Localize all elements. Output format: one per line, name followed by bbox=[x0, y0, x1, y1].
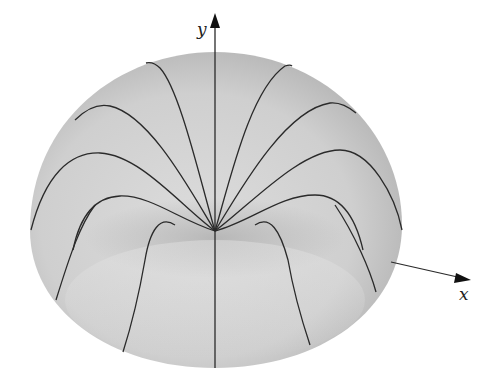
x-axis-label: x bbox=[459, 284, 469, 304]
x-axis-arrowhead bbox=[454, 273, 471, 283]
x-axis-line bbox=[391, 262, 462, 278]
y-axis-arrowhead bbox=[210, 13, 220, 28]
surface-diagram: y x bbox=[0, 0, 498, 390]
y-axis-label: y bbox=[196, 19, 207, 39]
